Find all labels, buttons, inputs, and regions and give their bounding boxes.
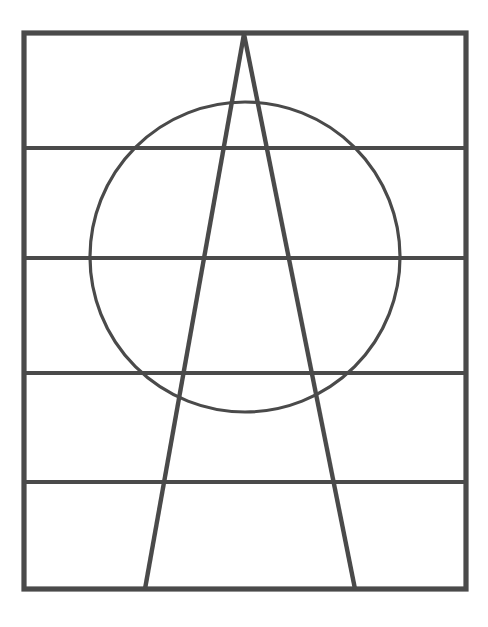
geometric-figure <box>0 0 488 627</box>
diagonal-top-left-leg <box>145 34 244 589</box>
diagonal-top-right-leg <box>244 34 355 589</box>
drawing-canvas: Geometric line drawing <box>0 0 488 627</box>
outer-rectangle <box>24 33 466 589</box>
horizontal-divider-group <box>24 148 466 482</box>
